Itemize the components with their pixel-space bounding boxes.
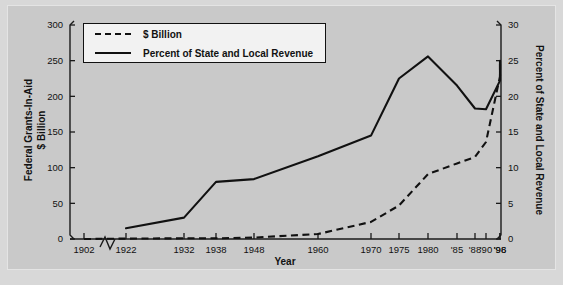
- svg-text:25: 25: [508, 55, 519, 66]
- legend-item-percent-revenue: Percent of State and Local Revenue: [84, 43, 325, 63]
- series-percent-state-local-revenue: [126, 56, 500, 228]
- svg-text:30: 30: [508, 19, 519, 30]
- svg-text:250: 250: [47, 55, 63, 66]
- legend-dashed-line-swatch: [95, 28, 131, 40]
- left-tick-marks: [70, 25, 75, 239]
- svg-text:1938: 1938: [205, 244, 226, 255]
- svg-text:0: 0: [508, 233, 513, 244]
- right-tick-marks: [496, 25, 501, 239]
- x-tick-labels: 190219221932193819481960197019751980'85'…: [73, 244, 506, 255]
- left-axis-title-line2: $ Billion: [36, 111, 47, 150]
- svg-text:1975: 1975: [388, 244, 409, 255]
- svg-text:10: 10: [508, 162, 519, 173]
- svg-text:1980: 1980: [417, 244, 438, 255]
- chart-legend: $ Billion Percent of State and Local Rev…: [83, 23, 326, 63]
- svg-text:1932: 1932: [173, 244, 194, 255]
- svg-text:0: 0: [58, 233, 63, 244]
- x-axis-title: Year: [274, 256, 295, 267]
- svg-text:1970: 1970: [360, 244, 381, 255]
- svg-text:'90: '90: [480, 244, 492, 255]
- svg-text:5: 5: [508, 198, 513, 209]
- series-dollar-billion: [84, 64, 500, 240]
- chart-figure: 050100150200250300 051015202530 19021922…: [7, 5, 556, 270]
- legend-label-percent-revenue: Percent of State and Local Revenue: [143, 48, 313, 59]
- legend-solid-line-swatch: [95, 47, 131, 59]
- svg-text:1948: 1948: [243, 244, 264, 255]
- svg-text:200: 200: [47, 91, 63, 102]
- svg-text:20: 20: [508, 91, 519, 102]
- svg-text:'98: '98: [494, 244, 506, 255]
- svg-text:300: 300: [47, 19, 63, 30]
- left-tick-labels: 050100150200250300: [47, 19, 63, 244]
- svg-text:100: 100: [47, 162, 63, 173]
- left-axis-line: [70, 21, 74, 239]
- svg-text:50: 50: [52, 198, 63, 209]
- svg-text:1902: 1902: [73, 244, 94, 255]
- svg-text:150: 150: [47, 126, 63, 137]
- left-axis-title-line1: Federal Grants-In-Aid: [23, 79, 34, 181]
- right-axis-line: [497, 21, 501, 239]
- svg-text:'85: '85: [451, 244, 463, 255]
- right-axis-title: Percent of State and Local Revenue: [534, 45, 545, 215]
- svg-text:15: 15: [508, 126, 519, 137]
- legend-item-dollar-billion: $ Billion: [84, 24, 325, 44]
- svg-text:1960: 1960: [307, 244, 328, 255]
- svg-text:1922: 1922: [115, 244, 136, 255]
- legend-label-dollar-billion: $ Billion: [143, 29, 182, 40]
- right-tick-labels: 051015202530: [508, 19, 519, 244]
